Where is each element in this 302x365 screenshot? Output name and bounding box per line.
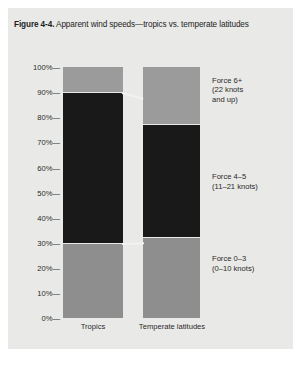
x-axis-label-tropics: Tropics (63, 322, 123, 331)
legend-label-force0to3-line2: (0–10 knots) (212, 264, 254, 273)
legend-label-force4to5-line1: Force 4–5 (212, 172, 246, 181)
y-tick-10: 10%— (18, 289, 60, 298)
y-tick-70: 70%— (18, 138, 60, 147)
bar-segment-tropics-force0to3[interactable] (63, 244, 123, 318)
legend-label-force0to3-line1: Force 0–3 (212, 254, 246, 263)
y-tick-20: 20%— (18, 264, 60, 273)
bar-segment-tropics-force6plus[interactable] (63, 67, 123, 92)
legend-label-force4to5-line2: (11–21 knots) (212, 182, 258, 191)
chart-plot-area: 100%— 90%— 80%— 70%— 60%— 50%— 40%— 30%—… (0, 0, 302, 365)
bar-segment-temperate-force6plus[interactable] (143, 67, 200, 124)
bar-segment-temperate-force0to3[interactable] (143, 238, 200, 318)
y-tick-90: 90%— (18, 88, 60, 97)
bar-tropics[interactable] (63, 67, 123, 318)
bar-segment-temperate-force4to5[interactable] (143, 125, 200, 237)
x-axis-label-temperate: Temperate latitudes (127, 322, 217, 331)
bar-temperate-latitudes[interactable] (143, 67, 200, 318)
legend-label-force6plus-line3: and up) (212, 95, 238, 104)
legend-label-force6plus-line2: (22 knots (212, 85, 243, 94)
y-tick-80: 80%— (18, 113, 60, 122)
connector-force0to3-boundary (122, 242, 144, 245)
y-tick-40: 40%— (18, 214, 60, 223)
connector-force6plus-boundary (122, 92, 144, 100)
bar-segment-tropics-force4to5[interactable] (63, 93, 123, 243)
y-tick-60: 60%— (18, 164, 60, 173)
y-tick-100: 100%— (18, 63, 60, 72)
y-tick-0: 0%— (18, 314, 60, 323)
y-tick-50: 50%— (18, 189, 60, 198)
y-axis: 100%— 90%— 80%— 70%— 60%— 50%— 40%— 30%—… (14, 0, 60, 365)
legend-label-force6plus-line1: Force 6+ (212, 76, 242, 85)
y-tick-30: 30%— (18, 239, 60, 248)
